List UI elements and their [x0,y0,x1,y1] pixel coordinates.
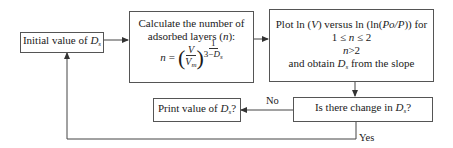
plot-line2: 1 ≤ n ≤ 2 [332,31,372,44]
plot-line1: Plot ln (V) versus ln (ln(Po/P)) for [276,18,428,31]
plot-line4: and obtain Ds from the slope [289,57,415,74]
layers-equation: n = ( V Vm ) 1 3−Ds [160,44,222,71]
print-value-text: Print value of Ds? [158,102,236,119]
yes-label: Yes [359,132,374,143]
decision-box: Is there change in Ds? [293,97,433,122]
plot-line3: n>2 [343,44,360,57]
initial-value-box: Initial value of Ds [20,32,104,53]
decision-text: Is there change in Ds? [315,101,411,118]
initial-value-text: Initial value of Ds [23,34,101,51]
calculate-layers-box: Calculate the number of adsorbed layers … [129,11,254,83]
plot-box: Plot ln (V) versus ln (ln(Po/P)) for 1 ≤… [269,9,434,82]
no-label: No [266,95,279,106]
print-value-box: Print value of Ds? [153,98,241,122]
calculate-line1: Calculate the number of [139,17,245,30]
